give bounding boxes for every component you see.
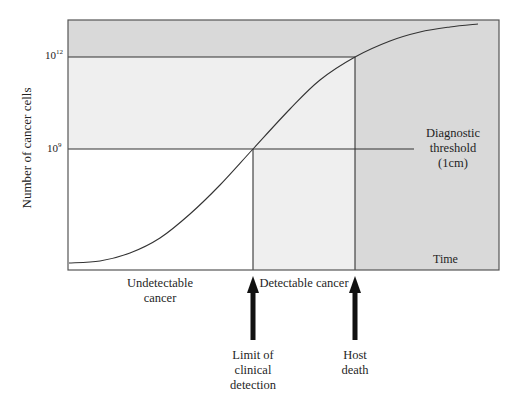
tumour-growth-diagram <box>0 0 520 402</box>
detectable-region <box>253 149 355 270</box>
y-tick-10-12: 1012 <box>45 48 63 61</box>
arrow-up-icon <box>247 276 259 293</box>
x-axis-label-time: Time <box>433 252 458 267</box>
detectable-band <box>68 57 355 149</box>
limit-of-detection-label: Limit of clinical detection <box>230 348 276 393</box>
y-tick-10-9: 109 <box>47 141 62 154</box>
detectable-cancer-label: Detectable cancer <box>259 276 348 291</box>
arrow-shaft <box>251 290 256 340</box>
diagnostic-threshold-label: Diagnostic threshold (1cm) <box>426 126 480 171</box>
y-axis-label: Number of cancer cells <box>19 88 35 209</box>
undetectable-cancer-label: Undetectable cancer <box>127 276 193 306</box>
host-death-arrow <box>349 276 361 340</box>
arrow-shaft <box>353 290 358 340</box>
arrow-up-icon <box>349 276 361 293</box>
limit-of-detection-arrow <box>247 276 259 340</box>
lethal-band <box>68 20 355 57</box>
host-death-label: Host death <box>341 348 368 378</box>
